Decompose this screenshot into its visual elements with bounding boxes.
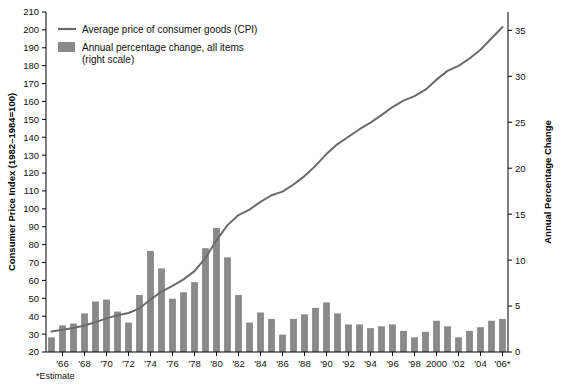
bar-annual-percentage-change	[389, 324, 396, 352]
x-tick-label: '96	[386, 358, 398, 369]
left-tick-label: 60	[28, 275, 39, 286]
x-tick-label: '92	[342, 358, 354, 369]
x-tick-label: '76	[166, 358, 178, 369]
right-tick-label: 0	[515, 346, 520, 357]
legend-line-label: Average price of consumer goods (CPI)	[82, 24, 257, 35]
bar-annual-percentage-change	[246, 323, 253, 352]
left-tick-label: 40	[28, 311, 39, 322]
bar-annual-percentage-change	[81, 313, 88, 352]
bar-annual-percentage-change	[268, 319, 275, 352]
right-tick-label: 20	[515, 163, 526, 174]
bar-annual-percentage-change	[202, 248, 209, 352]
right-axis-title: Annual Percentage Change	[542, 120, 553, 244]
x-tick-label: '74	[144, 358, 156, 369]
bar-annual-percentage-change	[455, 337, 462, 352]
bar-annual-percentage-change	[499, 319, 506, 352]
bar-annual-percentage-change	[422, 332, 429, 352]
left-tick-label: 120	[23, 167, 39, 178]
left-tick-label: 200	[23, 24, 39, 35]
bar-annual-percentage-change	[301, 314, 308, 352]
cpi-chart: 2030405060708090100110120130140150160170…	[0, 0, 565, 390]
x-tick-label: 2000	[426, 358, 447, 369]
x-tick-label: '94	[364, 358, 376, 369]
left-tick-label: 190	[23, 42, 39, 53]
x-tick-label: '86	[276, 358, 288, 369]
x-tick-label: '70	[100, 358, 112, 369]
bar-annual-percentage-change	[213, 228, 220, 352]
left-tick-label: 20	[28, 346, 39, 357]
line-cpi	[52, 27, 503, 331]
x-tick-label: '66	[56, 358, 68, 369]
bar-annual-percentage-change	[488, 321, 495, 352]
bar-annual-percentage-change	[158, 268, 165, 352]
bar-annual-percentage-change	[466, 331, 473, 352]
legend-bar-label-line1: Annual percentage change, all items	[82, 42, 244, 53]
x-tick-label: '80	[210, 358, 222, 369]
bar-annual-percentage-change	[411, 337, 418, 352]
x-tick-label: '04	[474, 358, 486, 369]
bar-annual-percentage-change	[334, 313, 341, 352]
left-tick-label: 80	[28, 239, 39, 250]
bar-annual-percentage-change	[279, 335, 286, 352]
left-tick-label: 180	[23, 60, 39, 71]
legend-bar-swatch	[58, 42, 75, 52]
bar-annual-percentage-change	[257, 312, 264, 352]
left-tick-label: 130	[23, 150, 39, 161]
left-tick-label: 100	[23, 203, 39, 214]
x-tick-label: '78	[188, 358, 200, 369]
bar-annual-percentage-change	[477, 327, 484, 352]
bar-annual-percentage-change	[224, 257, 231, 352]
x-tick-label: '68	[78, 358, 90, 369]
bar-annual-percentage-change	[290, 319, 297, 352]
right-tick-label: 5	[515, 300, 520, 311]
bar-annual-percentage-change	[444, 326, 451, 352]
bar-annual-percentage-change	[114, 312, 121, 352]
bar-annual-percentage-change	[191, 282, 198, 352]
bar-annual-percentage-change	[235, 295, 242, 352]
x-tick-label: '88	[298, 358, 310, 369]
bar-annual-percentage-change	[378, 326, 385, 352]
bar-annual-percentage-change	[367, 328, 374, 352]
bar-annual-percentage-change	[180, 292, 187, 352]
x-tick-label: '82	[232, 358, 244, 369]
bar-annual-percentage-change	[169, 299, 176, 352]
left-tick-label: 90	[28, 221, 39, 232]
left-tick-label: 140	[23, 132, 39, 143]
left-tick-label: 110	[24, 185, 39, 196]
bar-annual-percentage-change	[125, 323, 132, 352]
bar-annual-percentage-change	[323, 302, 330, 352]
bar-annual-percentage-change	[433, 321, 440, 352]
bar-annual-percentage-change	[400, 331, 407, 352]
bar-annual-percentage-change	[345, 324, 352, 352]
legend-bar-label-line2: (right scale)	[82, 54, 134, 65]
left-tick-label: 170	[23, 78, 39, 89]
left-tick-label: 70	[28, 257, 39, 268]
bar-annual-percentage-change	[92, 301, 99, 352]
right-tick-label: 30	[515, 71, 526, 82]
right-tick-label: 10	[515, 255, 526, 266]
right-tick-label: 25	[515, 117, 526, 128]
right-tick-label: 35	[515, 25, 526, 36]
bar-annual-percentage-change	[136, 295, 143, 352]
left-axis-title: Consumer Price Index (1982–1984=100)	[6, 93, 17, 271]
bar-annual-percentage-change	[48, 337, 55, 352]
chart-canvas: 2030405060708090100110120130140150160170…	[0, 0, 565, 390]
x-tick-label: '90	[320, 358, 332, 369]
bar-annual-percentage-change	[312, 308, 319, 352]
left-tick-label: 210	[23, 6, 39, 17]
bar-annual-percentage-change	[356, 324, 363, 352]
bar-annual-percentage-change	[103, 300, 110, 352]
left-tick-label: 50	[28, 293, 39, 304]
left-tick-label: 150	[23, 114, 39, 125]
left-tick-label: 30	[28, 329, 39, 340]
footnote-estimate: *Estimate	[36, 371, 75, 381]
left-tick-label: 160	[23, 96, 39, 107]
x-tick-label: '84	[254, 358, 266, 369]
x-tick-label: '06*	[494, 358, 510, 369]
x-tick-label: '72	[122, 358, 134, 369]
right-tick-label: 15	[515, 209, 526, 220]
x-tick-label: '02	[452, 358, 464, 369]
x-tick-label: '98	[408, 358, 420, 369]
